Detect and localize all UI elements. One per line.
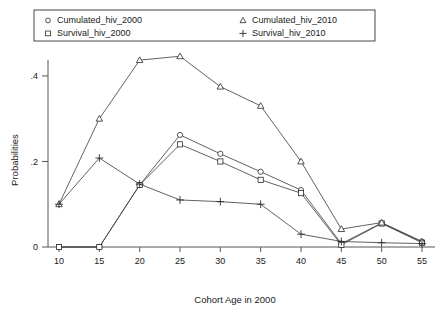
legend-label: Cumulated_hiv_2000 [57,15,142,25]
probabilities-line-chart: Cumulated_hiv_2000Cumulated_hiv_2010Surv… [0,0,442,315]
x-tick-label: 15 [94,256,104,266]
data-point-square [258,177,263,182]
data-point-circle [218,151,223,156]
series-square [56,142,424,250]
y-tick-label: .2 [30,157,38,167]
y-tick-label: 0 [33,242,38,252]
data-point-triangle [257,103,264,109]
data-point-triangle [96,115,103,121]
legend-item: Cumulated_hiv_2010 [240,15,337,25]
chart-series [55,53,426,250]
chart-legend: Cumulated_hiv_2000Cumulated_hiv_2010Surv… [34,10,375,41]
chart-container: Cumulated_hiv_2000Cumulated_hiv_2010Surv… [0,0,442,315]
x-tick-label: 45 [336,256,346,266]
data-point-triangle [298,158,305,164]
legend-marker-square [46,31,51,36]
x-tick-label: 35 [256,256,266,266]
series-plus [55,154,426,247]
data-point-circle [258,169,263,174]
legend-item: Survival_hiv_2000 [46,28,131,38]
data-point-square [97,244,102,249]
data-point-square [298,191,303,196]
x-axis-title: Cohort Age in 2000 [194,294,275,305]
chart-axis-titles: Cohort Age in 2000 Probabilities [9,134,276,305]
legend-item: Survival_hiv_2010 [239,28,325,38]
legend-label: Cumulated_hiv_2010 [252,15,337,25]
legend-label: Survival_hiv_2010 [252,28,326,38]
data-point-circle [177,132,182,137]
x-tick-label: 20 [135,256,145,266]
x-tick-label: 30 [215,256,225,266]
series-circle [56,132,424,249]
data-point-triangle [177,53,184,59]
x-tick-label: 55 [417,256,427,266]
x-tick-label: 40 [296,256,306,266]
x-tick-label: 50 [377,256,387,266]
legend-item: Cumulated_hiv_2000 [46,15,142,25]
series-polyline [59,56,422,241]
chart-axes: 0.2.410152025303540455055 [30,60,435,266]
data-point-triangle [217,83,224,89]
series-polyline [59,135,422,247]
series-triangle [56,53,426,244]
x-tick-label: 25 [175,256,185,266]
legend-marker-circle [46,18,51,23]
legend-label: Survival_hiv_2000 [57,28,131,38]
data-point-square [56,244,61,249]
y-axis-title: Probabilities [9,134,20,186]
y-tick-label: .4 [30,71,38,81]
x-tick-label: 10 [54,256,64,266]
data-point-square [177,142,182,147]
data-point-square [218,159,223,164]
series-polyline [59,144,422,247]
